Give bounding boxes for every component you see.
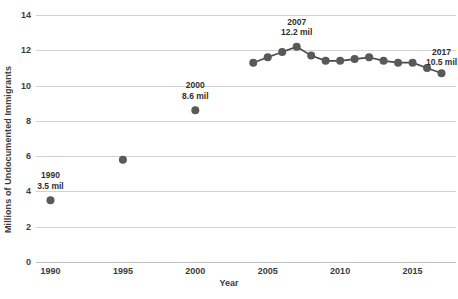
y-tick-label: 0: [26, 257, 31, 267]
data-label: 19903.5 mil: [37, 170, 63, 191]
data-point-marker: [278, 48, 286, 56]
y-tick-label: 6: [26, 151, 31, 161]
y-tick-label: 2: [26, 222, 31, 232]
data-label: 200712.2 mil: [281, 17, 312, 38]
data-label-year: 2017: [426, 47, 457, 58]
data-label-value: 8.6 mil: [182, 91, 208, 102]
data-point-marker: [46, 196, 54, 204]
x-tick-label: 2015: [403, 266, 423, 276]
y-tick-label: 14: [21, 10, 31, 20]
y-tick-label: 8: [26, 116, 31, 126]
data-point-marker: [119, 156, 127, 164]
data-label-value: 12.2 mil: [281, 27, 312, 38]
data-point-marker: [307, 52, 315, 60]
data-point-marker: [394, 59, 402, 67]
data-label-year: 2000: [182, 80, 208, 91]
data-label-value: 10.5 mil: [426, 57, 457, 68]
data-label-year: 2007: [281, 17, 312, 28]
data-label: 201710.5 mil: [426, 47, 457, 68]
data-point-marker: [191, 106, 199, 114]
x-axis-title: Year: [0, 278, 458, 288]
data-series-group: [36, 15, 456, 262]
x-tick-label: 2000: [185, 266, 205, 276]
data-point-marker: [409, 59, 417, 67]
x-tick-label: 1995: [113, 266, 133, 276]
y-tick-label: 4: [26, 186, 31, 196]
data-label-value: 3.5 mil: [37, 181, 63, 192]
x-tick-label: 2005: [258, 266, 278, 276]
data-point-marker: [365, 53, 373, 61]
data-point-marker: [438, 69, 446, 77]
data-point-marker: [322, 57, 330, 65]
gridline: [36, 262, 456, 263]
data-point-marker: [380, 57, 388, 65]
data-point-marker: [249, 59, 257, 67]
data-point-marker: [336, 57, 344, 65]
data-point-marker: [264, 53, 272, 61]
x-tick-label: 1990: [40, 266, 60, 276]
plot-area: 02468101214 199019952000200520102015 199…: [36, 15, 456, 262]
y-tick-label: 10: [21, 81, 31, 91]
data-label: 20008.6 mil: [182, 80, 208, 101]
y-axis-title: Millions of Undocumented Immigrants: [0, 0, 16, 299]
data-point-marker: [351, 55, 359, 63]
data-point-marker: [293, 43, 301, 51]
y-tick-label: 12: [21, 45, 31, 55]
chart-container: Millions of Undocumented Immigrants 0246…: [0, 0, 458, 299]
x-tick-label: 2010: [330, 266, 350, 276]
data-label-year: 1990: [37, 170, 63, 181]
